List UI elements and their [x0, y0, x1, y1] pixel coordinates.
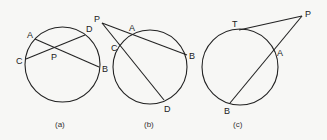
figure-a: A D C B P (a) — [16, 24, 108, 129]
label-c-point-p: P — [305, 9, 311, 19]
label-a-point-p: P — [51, 52, 57, 62]
label-a-point-c: C — [16, 56, 23, 66]
circle-a — [25, 27, 100, 102]
caption-a: (a) — [55, 120, 65, 129]
circle-theorems-diagram: A D C B P (a) P A C B D (b) T P A B (c) — [0, 0, 327, 140]
label-a-point-b: B — [102, 64, 108, 74]
label-b-point-c: C — [111, 43, 118, 53]
label-a-point-a: A — [27, 30, 33, 40]
figure-c: T P A B (c) — [202, 9, 311, 129]
label-c-point-t: T — [232, 19, 238, 29]
label-b-point-b: B — [189, 51, 195, 61]
label-c-point-b: B — [224, 106, 230, 116]
label-c-point-a: A — [277, 48, 283, 58]
circle-c — [202, 29, 278, 105]
figure-b: P A C B D (b) — [94, 14, 195, 129]
label-a-point-d: D — [86, 24, 93, 34]
caption-c: (c) — [233, 120, 243, 129]
label-b-point-p: P — [94, 14, 100, 24]
caption-b: (b) — [144, 120, 154, 129]
chord-ab — [35, 39, 99, 67]
label-b-point-d: D — [164, 104, 171, 114]
label-b-point-a: A — [129, 23, 135, 33]
